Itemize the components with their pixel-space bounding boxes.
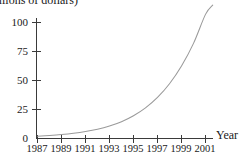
y-tick-label-50: 50	[17, 74, 29, 86]
x-tick-label-1999: 1999	[171, 143, 192, 154]
chart-svg: (millions of dollars) 100 75 50 25 0	[0, 0, 242, 161]
data-series-line	[38, 5, 213, 136]
y-axis-origin-label: 0	[23, 132, 29, 144]
chart-caption: (millions of dollars)	[0, 0, 78, 7]
x-axis-title: Year	[216, 128, 238, 142]
y-tick-labels: 100 75 50 25	[12, 16, 29, 115]
x-tick-label-1997: 1997	[147, 143, 168, 154]
x-tick-label-1987: 1987	[27, 143, 48, 154]
x-tick-label-1993: 1993	[99, 143, 120, 154]
chart-container: (millions of dollars) 100 75 50 25 0	[0, 0, 242, 161]
x-tick-label-1995: 1995	[123, 143, 144, 154]
x-tick-labels: 1987 1989 1991 1993 1995 1997 1999 2001	[27, 143, 216, 154]
x-tick-label-2001: 2001	[195, 143, 216, 154]
y-tick-label-25: 25	[17, 103, 29, 115]
y-tick-label-100: 100	[12, 16, 29, 28]
x-tick-label-1989: 1989	[51, 143, 72, 154]
x-tick-label-1991: 1991	[75, 143, 96, 154]
y-tick-label-75: 75	[17, 45, 29, 57]
